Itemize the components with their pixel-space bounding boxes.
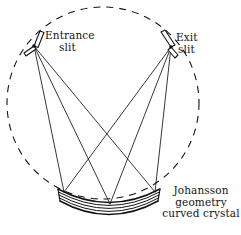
- crystal-label-line3: curved crystal: [161, 208, 241, 220]
- entrance-slit-label: Entrance slit: [45, 30, 95, 53]
- exit-ray-2: [110, 47, 171, 204]
- johansson-geometry-figure: Entrance slit Exit slit Johansson geomet…: [0, 0, 241, 235]
- entrance-ray-3: [34, 46, 155, 192]
- exit-ray-1: [64, 47, 171, 192]
- entrance-slit-vertex: [32, 44, 36, 48]
- exit-slit-label-line1: Exit: [176, 31, 198, 43]
- entrance-slit-label-line1: Entrance: [45, 29, 95, 41]
- exit-slit-label-line2: slit: [176, 44, 198, 56]
- entrance-slit-label-line2: slit: [45, 42, 95, 54]
- crystal-label-line1: Johansson: [161, 185, 241, 197]
- entrance-ray-1: [34, 46, 64, 192]
- rowland-circle: [7, 7, 199, 199]
- curved-crystal: [58, 189, 160, 215]
- crystal-label: Johansson geometry curved crystal: [161, 185, 241, 220]
- entrance-ray-bundle: [34, 46, 155, 204]
- crystal-arc-4: [60, 198, 159, 212]
- exit-slit-vertex: [169, 45, 173, 49]
- exit-ray-bundle: [64, 47, 171, 204]
- exit-slit-label: Exit slit: [176, 32, 198, 55]
- crystal-arc-1: [58, 189, 160, 203]
